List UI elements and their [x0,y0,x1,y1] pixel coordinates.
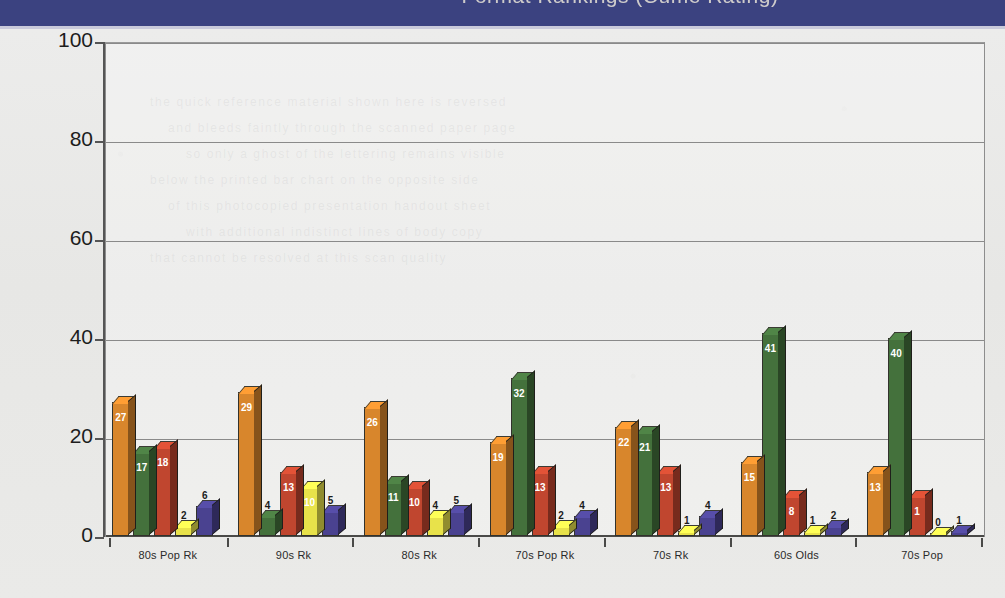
bar-90s-rk-series1: 29 [238,392,255,536]
y-tick-100 [95,42,104,44]
bar-value-label: 10 [407,497,422,508]
slide-header-band: Format Rankings (Cume Rating) [0,0,1005,26]
y-tick-80 [95,141,104,143]
bar-side-face [673,464,681,535]
bar-70s-rk-series1: 22 [615,427,632,536]
bar-value-label: 29 [239,402,254,413]
bar-value-label: 26 [365,417,380,428]
x-tick [352,538,354,547]
bar-value-label: 8 [784,506,799,517]
bar-side-face [128,395,136,535]
x-axis-label-80s-rk: 80s Rk [356,549,482,561]
y-axis-label-20: 20 [15,424,93,448]
bar-value-label: 18 [155,457,170,468]
bar-value-label: 40 [889,348,904,359]
bar-side-face [464,504,472,535]
bar-side-face [715,508,723,535]
bar-side-face [757,454,765,535]
bar-side-face [883,464,891,535]
x-axis-label-70s-pop: 70s Pop [859,549,985,561]
bar-60s-olds-series4: 1 [804,531,821,536]
bar-value-label: 13 [658,482,673,493]
bar-side-face [925,489,933,535]
bar-70s-pop-series5: 1 [951,531,968,536]
bar-value-label: 13 [281,482,296,493]
bar-value-label: 15 [742,472,757,483]
x-tick [604,538,606,547]
bar-80s-rk-series1: 26 [364,407,381,536]
bar-side-face [170,439,178,535]
y-tick-60 [95,240,104,242]
bar-70s-rk-series4: 1 [678,531,695,536]
bar-70s-pop-series4: 0 [930,533,947,536]
bar-80s-pop-rk-series1: 27 [112,402,129,536]
bar-side-face [401,474,409,535]
bar-side-face [652,424,660,535]
bar-side-face [506,434,514,535]
bar-70s-pop-rk-series1: 19 [490,442,507,536]
y-axis-label-40: 40 [15,325,93,349]
x-axis-label-70s-pop-rk: 70s Pop Rk [482,549,608,561]
bar-side-face [631,419,639,535]
bar-side-face [254,385,262,535]
y-axis-label-60: 60 [15,226,93,250]
bar-side-face [380,400,388,535]
bar-value-label: 19 [491,452,506,463]
y-tick-20 [95,438,104,440]
bar-side-face [799,489,807,535]
x-axis-label-80s-pop-rk: 80s Pop Rk [105,549,231,561]
bar-value-label: 11 [386,492,401,503]
x-tick [981,538,983,547]
x-tick [855,538,857,547]
x-tick [478,538,480,547]
x-axis-label-60s-olds: 60s Olds [734,549,860,561]
y-tick-40 [95,339,104,341]
bar-side-face [317,479,325,535]
bar-side-face [527,370,535,535]
x-tick-origin [109,538,111,547]
gridline-60 [106,241,984,242]
slide-title: Format Rankings (Cume Rating) [300,0,940,8]
bar-side-face [149,444,157,535]
y-axis [88,42,105,537]
y-axis-label-100: 100 [15,28,93,52]
x-tick [227,538,229,547]
bar-side-face [778,325,786,535]
bar-60s-olds-series1: 15 [741,462,758,536]
plot-area: 2717182629413105261110451932132422211314… [105,42,985,537]
bar-side-face [422,479,430,535]
bar-70s-pop-series1: 13 [867,472,884,536]
y-tick-0 [95,537,104,539]
gridline-100 [106,43,984,44]
bar-side-face [338,504,346,535]
x-axis-label-90s-rk: 90s Rk [231,549,357,561]
bar-side-face [548,464,556,535]
bar-value-label: 41 [763,343,778,354]
bar-value-label: 27 [113,412,128,423]
gridline-80 [106,142,984,143]
bar-value-label: 32 [512,388,527,399]
bar-side-face [296,464,304,535]
bar-value-label: 22 [616,437,631,448]
y-axis-label-0: 0 [15,523,93,547]
bar-value-label: 10 [302,497,317,508]
x-axis-label-70s-rk: 70s Rk [608,549,734,561]
bar-side-face [904,330,912,535]
gridline-40 [106,340,984,341]
x-tick [730,538,732,547]
bar-value-label: 13 [868,482,883,493]
bar-side-face [212,499,220,535]
bar-value-label: 17 [134,462,149,473]
y-axis-label-80: 80 [15,127,93,151]
bar-value-label: 21 [637,442,652,453]
